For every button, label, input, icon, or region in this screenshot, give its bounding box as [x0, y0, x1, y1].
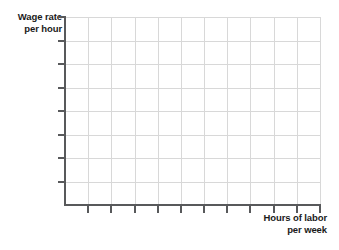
- x-axis-label-line-2: per week: [263, 224, 327, 236]
- y-axis-tick: [58, 63, 65, 65]
- x-axis-tick: [249, 206, 251, 213]
- y-axis-tick: [58, 40, 65, 42]
- grid-line-horizontal: [65, 182, 320, 183]
- x-axis-tick: [296, 206, 298, 213]
- y-axis-label-line-2: per hour: [18, 23, 62, 35]
- x-axis-tick: [134, 206, 136, 213]
- grid-line-horizontal: [65, 64, 320, 65]
- x-axis-tick: [319, 206, 321, 213]
- y-axis-label-line-1: Wage rate: [18, 11, 62, 23]
- grid-line-horizontal: [65, 111, 320, 112]
- y-axis-label: Wage rate per hour: [18, 11, 62, 34]
- y-axis-tick: [58, 157, 65, 159]
- x-axis-label: Hours of labor per week: [263, 212, 327, 235]
- y-axis-tick: [58, 16, 65, 18]
- y-axis-tick: [58, 87, 65, 89]
- y-axis-tick: [58, 181, 65, 183]
- y-axis-tick: [58, 110, 65, 112]
- x-axis-tick: [87, 206, 89, 213]
- plot-area: [65, 17, 320, 205]
- y-axis-tick: [58, 134, 65, 136]
- x-axis-tick: [273, 206, 275, 213]
- x-axis-tick: [157, 206, 159, 213]
- x-axis-tick: [203, 206, 205, 213]
- x-axis-label-line-1: Hours of labor: [263, 212, 327, 224]
- x-axis-line: [64, 204, 321, 206]
- x-axis-tick: [110, 206, 112, 213]
- grid-line-horizontal: [65, 158, 320, 159]
- grid-line-horizontal: [65, 88, 320, 89]
- blank-graph-figure: Wage rate per hour Hours of labor per we…: [0, 0, 339, 250]
- grid-line-horizontal: [65, 135, 320, 136]
- grid-line-horizontal: [65, 41, 320, 42]
- x-axis-tick: [226, 206, 228, 213]
- grid-line-horizontal: [65, 17, 320, 18]
- grid-line-vertical: [320, 17, 321, 205]
- x-axis-tick: [180, 206, 182, 213]
